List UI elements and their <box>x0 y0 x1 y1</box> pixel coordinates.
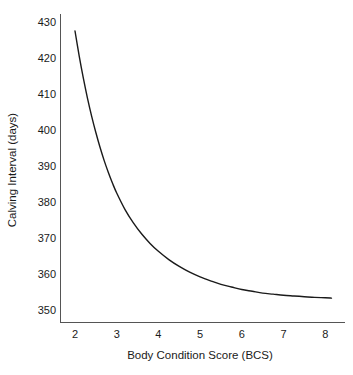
x-tick-label: 5 <box>190 329 210 340</box>
data-line-calving-interval <box>75 31 331 298</box>
x-tick-label: 8 <box>315 329 335 340</box>
x-tick-label: 6 <box>232 329 252 340</box>
x-tick-label: 2 <box>65 329 85 340</box>
plot-area <box>0 0 353 375</box>
x-axis-tick-labels: 2345678 <box>0 329 353 343</box>
x-axis-title: Body Condition Score (BCS) <box>60 349 340 361</box>
chart-figure: Calving Interval (days) 3503603703803904… <box>0 0 353 375</box>
x-tick-label: 7 <box>274 329 294 340</box>
x-tick-label: 3 <box>107 329 127 340</box>
x-tick-label: 4 <box>148 329 168 340</box>
